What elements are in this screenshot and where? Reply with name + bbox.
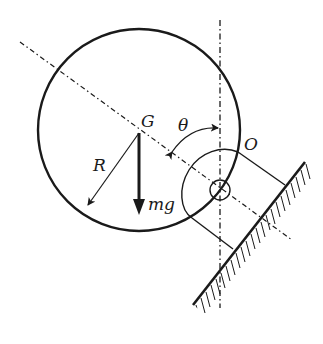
label-mg: mg [148, 194, 175, 214]
label-o: O [244, 134, 258, 154]
diagram-canvas: G θ O R mg [0, 0, 323, 344]
label-theta: θ [178, 115, 188, 135]
label-r: R [92, 155, 106, 175]
label-g: G [141, 111, 155, 131]
weight-arrow [133, 133, 145, 215]
